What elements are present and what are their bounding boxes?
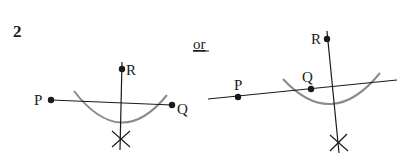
perpendicular-line xyxy=(120,62,122,150)
label-q: Q xyxy=(302,69,313,85)
label-q: Q xyxy=(177,101,188,117)
question-number: 2 xyxy=(13,22,22,41)
diagram-canvas: 2 or P Q R P Q R xyxy=(0,0,416,160)
line-pq xyxy=(51,100,172,105)
point-q xyxy=(308,86,314,92)
label-p: P xyxy=(34,92,42,108)
left-construction: P Q R xyxy=(34,62,188,150)
point-r xyxy=(119,66,125,72)
intersection-cross-mark xyxy=(112,131,130,147)
point-p xyxy=(48,97,54,103)
right-construction: P Q R xyxy=(208,31,397,153)
label-r: R xyxy=(311,31,321,47)
point-q xyxy=(169,102,175,108)
separator-or: or xyxy=(193,36,206,52)
label-r: R xyxy=(126,62,136,78)
point-p xyxy=(235,94,241,100)
perpendicular-line xyxy=(327,31,339,153)
point-r xyxy=(324,36,330,42)
label-p: P xyxy=(234,77,242,93)
